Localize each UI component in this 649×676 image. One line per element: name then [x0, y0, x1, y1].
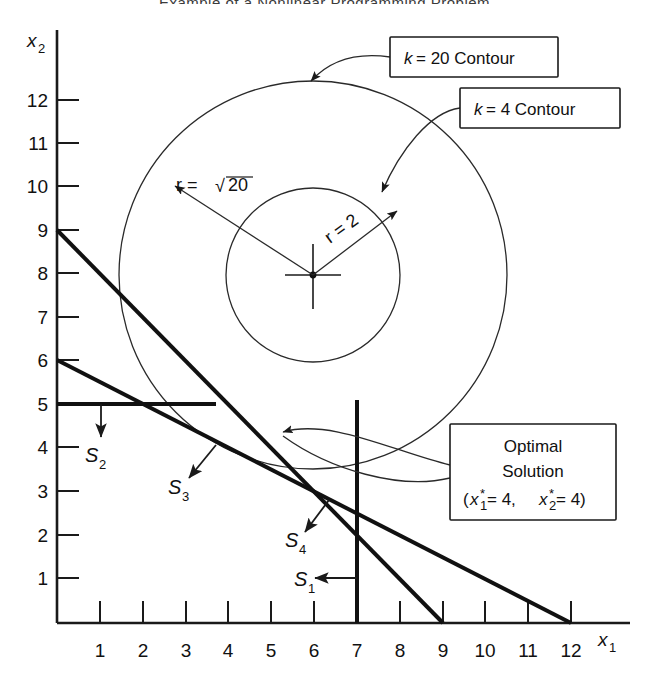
y-tick-11: 11	[28, 133, 48, 154]
label-s3-base: S	[168, 476, 182, 498]
optimal-eq1: = 4,	[487, 490, 516, 509]
y-tick-2: 2	[37, 525, 48, 546]
x-tick-3: 3	[181, 640, 192, 661]
optimal-leader-lower	[283, 436, 450, 482]
y-tick-labels: 12 11 10 9 8 7 6 5 4 3 2 1	[27, 90, 49, 589]
x-tick-2: 2	[138, 640, 149, 661]
optimal-eq2: = 4)	[556, 490, 586, 509]
x-tick-1: 1	[95, 640, 106, 661]
x-axis-label-sub: 1	[609, 640, 616, 655]
center-cross-marker	[285, 244, 341, 309]
x-axis-label-base: x	[597, 629, 609, 650]
y-axis-label-sub: 2	[38, 41, 45, 56]
nonlinear-programming-figure: Example of a Nonlinear Programming Probl…	[0, 0, 649, 676]
x-tick-7: 7	[352, 640, 363, 661]
callout-k4-box[interactable]: k = 4 Contour	[460, 88, 620, 128]
x-tick-6: 6	[309, 640, 320, 661]
x-axis	[57, 601, 630, 623]
label-s3-sub: 3	[182, 489, 189, 504]
optimal-line1: Optimal	[504, 437, 563, 456]
radius-sqrt20-value: 20	[228, 175, 248, 195]
label-s4-base: S	[285, 529, 299, 551]
y-tick-8: 8	[37, 263, 48, 284]
label-s2: S 2	[85, 444, 106, 472]
y-tick-1: 1	[37, 568, 48, 589]
x-tick-5: 5	[266, 640, 277, 661]
y-tick-7: 7	[37, 307, 48, 328]
k20-leader	[311, 56, 390, 81]
y-tick-3: 3	[37, 481, 48, 502]
s3-direction-arrow	[189, 445, 216, 478]
y-axis-label: x 2	[26, 30, 45, 56]
label-s1-base: S	[294, 568, 308, 590]
y-tick-12: 12	[27, 90, 48, 111]
callout-k20-text: = 20 Contour	[416, 49, 515, 68]
k4-leader	[382, 108, 460, 192]
y-axis-label-base: x	[26, 30, 38, 51]
label-s1: S 1	[294, 568, 315, 596]
callout-k4-text: = 4 Contour	[486, 100, 576, 119]
y-tick-5: 5	[37, 394, 48, 415]
y-tick-4: 4	[37, 437, 48, 458]
constraint-line-s3	[57, 230, 443, 623]
label-s1-sub: 1	[308, 581, 315, 596]
figure-canvas: k = 20 Contour k = 4 Contour Optimal Sol…	[0, 0, 649, 676]
optimal-x2: x	[538, 490, 548, 509]
x-tick-11: 11	[518, 640, 538, 661]
radius-sqrt20-label: r = √ 20	[176, 175, 253, 196]
label-s4-sub: 4	[299, 542, 306, 557]
optimal-open-paren: (	[463, 490, 469, 509]
figure-title-partial: Example of a Nonlinear Programming Probl…	[0, 0, 649, 4]
label-s3: S 3	[168, 476, 189, 504]
label-s2-base: S	[85, 444, 99, 466]
label-s4: S 4	[285, 529, 306, 557]
radius-sqrt20-arrow	[175, 186, 313, 275]
radius-2-label: r = 2	[321, 210, 362, 248]
radius-2-text: r = 2	[321, 210, 362, 248]
optimal-line2: Solution	[502, 462, 563, 481]
optimal-x1-star: *	[480, 486, 485, 501]
label-s2-sub: 2	[99, 457, 106, 472]
x-axis-label: x 1	[597, 629, 616, 655]
y-tick-6: 6	[37, 350, 48, 371]
y-tick-10: 10	[27, 176, 48, 197]
x-tick-4: 4	[223, 640, 234, 661]
x-tick-labels: 1 2 3 4 5 6 7 8 9 10 11 12	[95, 640, 582, 661]
optimal-x1: x	[469, 490, 479, 509]
radius-sqrt20-text: r =	[176, 175, 198, 195]
optimal-x2-star: *	[549, 486, 554, 501]
s4-direction-arrow	[305, 500, 329, 532]
radius-sqrt20-radical: √	[215, 176, 225, 196]
x-tick-12: 12	[560, 640, 581, 661]
y-tick-9: 9	[37, 220, 48, 241]
x-tick-9: 9	[438, 640, 449, 661]
callout-k20-box[interactable]: k = 20 Contour	[390, 37, 558, 77]
y-axis	[57, 30, 79, 623]
x-tick-10: 10	[474, 640, 495, 661]
x-tick-8: 8	[395, 640, 406, 661]
optimal-solution-box[interactable]: Optimal Solution ( x 1 * = 4, x 2 * = 4)	[450, 424, 616, 520]
